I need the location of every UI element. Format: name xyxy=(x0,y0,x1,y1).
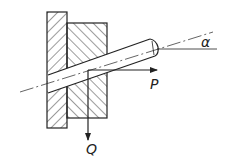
force-p-label: P xyxy=(150,76,159,92)
angle-alpha-label: α xyxy=(201,34,211,50)
force-q-label: Q xyxy=(86,141,97,157)
pin-joint-diagram: α P Q xyxy=(0,0,228,163)
